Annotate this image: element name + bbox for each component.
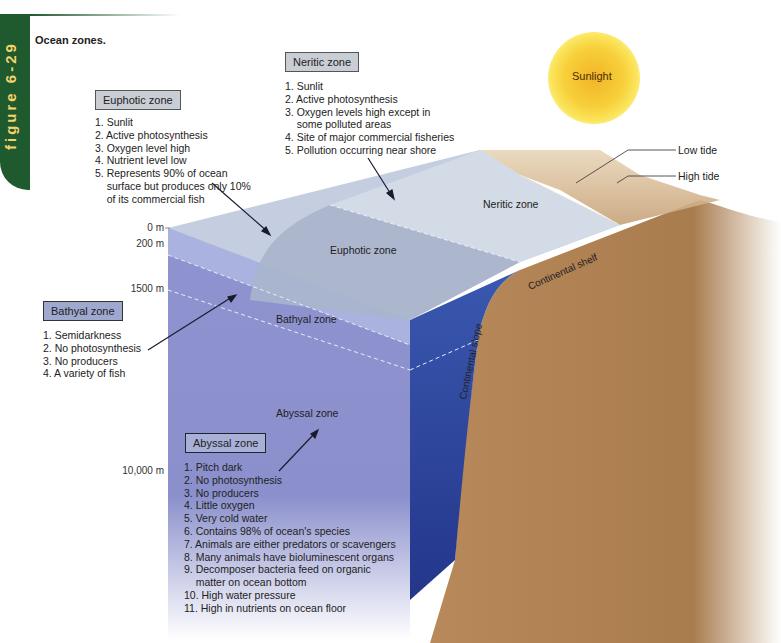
euphotic-zone-label: Euphotic zone — [330, 244, 397, 256]
fact-item: 1. Sunlit — [285, 80, 454, 93]
fact-item: 8. Many animals have bioluminescent orga… — [184, 551, 396, 564]
fact-item: surface but produces only 10% — [95, 180, 251, 193]
bathyal-zone-callout-title: Bathyal zone — [43, 301, 123, 321]
fact-item: 2. Active photosynthesis — [285, 93, 454, 106]
fact-item: 10. High water pressure — [184, 589, 396, 602]
bathyal-zone-facts: 1. Semidarkness 2. No photosynthesis 3. … — [43, 329, 141, 380]
low-tide-label: Low tide — [678, 144, 717, 156]
fact-item: 3. Oxygen levels high except in — [285, 106, 454, 119]
abyssal-zone-label: Abyssal zone — [276, 407, 339, 419]
fact-item: some polluted areas — [285, 118, 454, 131]
high-tide-label: High tide — [678, 170, 720, 182]
fact-item: 1. Sunlit — [95, 116, 251, 129]
fact-item: 1. Pitch dark — [184, 461, 396, 474]
fact-item: 5. Very cold water — [184, 512, 396, 525]
fact-item: 5. Represents 90% of ocean — [95, 167, 251, 180]
fact-item: 7. Animals are either predators or scave… — [184, 538, 396, 551]
neritic-zone-label: Neritic zone — [483, 198, 539, 210]
neritic-zone-callout-title: Neritic zone — [285, 52, 359, 72]
fact-item: 9. Decomposer bacteria feed on organic — [184, 563, 396, 576]
neritic-zone-facts: 1. Sunlit 2. Active photosynthesis 3. Ox… — [285, 80, 454, 157]
fact-item: 3. Oxygen level high — [95, 142, 251, 155]
fact-item: matter on ocean bottom — [184, 576, 396, 589]
depth-marker-10000m: 10,000 m — [104, 465, 164, 476]
fact-item: 4. Nutrient level low — [95, 154, 251, 167]
depth-marker-200m: 200 m — [104, 238, 164, 249]
bathyal-zone-label: Bathyal zone — [276, 313, 337, 325]
fact-item: 2. Active photosynthesis — [95, 129, 251, 142]
fact-item: 3. No producers — [184, 487, 396, 500]
fact-item: 3. No producers — [43, 355, 141, 368]
abyssal-zone-facts: 1. Pitch dark 2. No photosynthesis 3. No… — [184, 461, 396, 615]
fact-item: 4. A variety of fish — [43, 367, 141, 380]
depth-marker-1500m: 1500 m — [104, 283, 164, 294]
fact-item: 2. No photosynthesis — [43, 342, 141, 355]
euphotic-zone-callout-title: Euphotic zone — [95, 90, 181, 110]
depth-marker-0m: 0 m — [104, 222, 164, 233]
fact-item: 6. Contains 98% of ocean's species — [184, 525, 396, 538]
abyssal-zone-callout-title: Abyssal zone — [185, 433, 266, 453]
fact-item: 11. High in nutrients on ocean floor — [184, 602, 396, 615]
fact-item: 4. Little oxygen — [184, 499, 396, 512]
fact-item: of its commercial fish — [95, 193, 251, 206]
fact-item: 2. No photosynthesis — [184, 474, 396, 487]
fact-item: 1. Semidarkness — [43, 329, 141, 342]
fact-item: 4. Site of major commercial fisheries — [285, 131, 454, 144]
euphotic-zone-facts: 1. Sunlit 2. Active photosynthesis 3. Ox… — [95, 116, 251, 206]
fact-item: 5. Pollution occurring near shore — [285, 144, 454, 157]
